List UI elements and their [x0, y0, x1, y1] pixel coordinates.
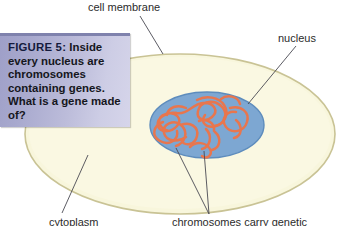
figure-caption-text: FIGURE 5: Inside every nucleus are chrom…: [8, 41, 123, 123]
figure-number-label: FIGURE 5:: [8, 41, 66, 53]
label-cytoplasm: cytoplasm: [49, 216, 99, 226]
label-cell-membrane: cell membrane: [88, 1, 160, 13]
figure-caption-box: FIGURE 5: Inside every nucleus are chrom…: [0, 33, 130, 127]
label-nucleus: nucleus: [278, 32, 316, 44]
leader-cell-membrane: [140, 16, 163, 54]
label-chromosomes: chromosomes carry genetic: [172, 216, 307, 226]
figure-canvas: cell membrane nucleus cytoplasm chromoso…: [0, 0, 346, 226]
